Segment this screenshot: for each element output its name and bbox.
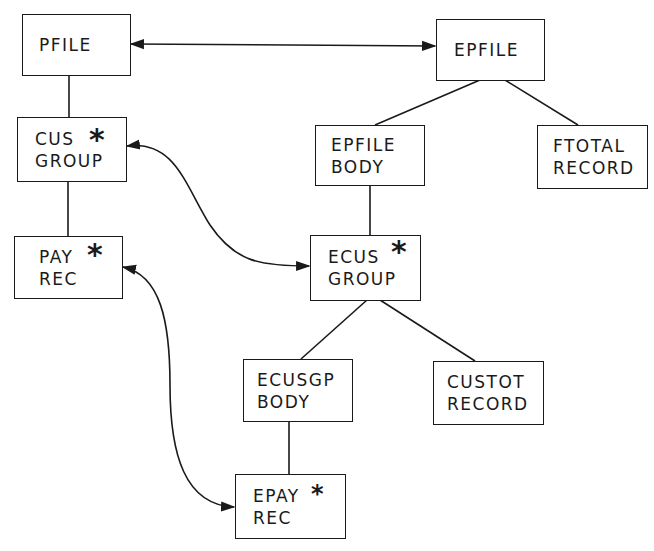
node-label-line-2: GROUP: [328, 268, 420, 290]
edge-ecus-group-ecusgp-body: [301, 300, 367, 359]
node-epay-rec: EPAY REC *: [235, 474, 346, 539]
node-label-line-1: ECUSGP: [257, 369, 352, 391]
correspondence-pay-rec-epay-rec: [123, 267, 234, 507]
node-pay-rec: PAY REC *: [14, 236, 123, 299]
node-label-line-2: RECORD: [447, 393, 543, 415]
node-epfile: EPFILE: [436, 19, 545, 81]
node-label: PFILE: [39, 34, 130, 56]
correspondence-pfile-epfile: [131, 44, 435, 46]
node-label-line-1: PAY: [39, 246, 122, 268]
node-custot-record: CUSTOT RECORD: [433, 361, 544, 425]
repeat-asterisk-icon: *: [311, 479, 325, 509]
node-label-line-1: EPAY: [253, 485, 345, 507]
node-epfile-body: EPFILE BODY: [315, 125, 425, 186]
correspondence-cus-group-ecus-group: [127, 145, 309, 266]
node-label-line-2: GROUP: [35, 150, 126, 172]
node-label: EPFILE: [454, 39, 544, 61]
repeat-asterisk-icon: *: [87, 240, 104, 270]
repeat-asterisk-icon: *: [89, 125, 106, 155]
node-label-line-1: EPFILE: [331, 134, 424, 156]
edge-epfile-epfile-body: [375, 80, 480, 125]
node-label-line-2: RECORD: [553, 157, 647, 179]
node-label-line-2: REC: [39, 268, 122, 290]
node-label-line-2: BODY: [331, 156, 424, 178]
node-ftotal-record: FTOTAL RECORD: [537, 125, 648, 189]
node-label-line-2: REC: [253, 507, 345, 529]
node-label-line-1: CUSTOT: [447, 371, 543, 393]
node-ecus-group: ECUS GROUP *: [310, 235, 421, 301]
repeat-asterisk-icon: *: [391, 237, 408, 267]
node-label-line-1: FTOTAL: [553, 135, 647, 157]
node-cus-group: CUS GROUP *: [17, 117, 127, 182]
edge-epfile-ftotal-record: [505, 80, 578, 125]
node-label-line-1: CUS: [35, 128, 126, 150]
edge-ecus-group-custot-record: [380, 300, 475, 361]
node-label-line-2: BODY: [257, 391, 352, 413]
node-pfile: PFILE: [22, 14, 131, 76]
node-ecusgp-body: ECUSGP BODY: [243, 359, 353, 422]
